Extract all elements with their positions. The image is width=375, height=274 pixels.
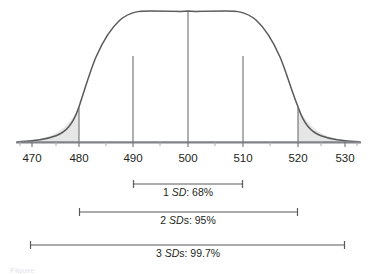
x-tick-label-510: 510: [233, 152, 252, 164]
sd3-label-prefix: 3: [156, 247, 165, 259]
x-tick-label-520: 520: [288, 152, 307, 164]
x-tick-label-470: 470: [22, 152, 41, 164]
sd3-bracket-group: 3 SDs: 99.7%: [30, 241, 345, 259]
x-axis-tick-labels: 470 480 490 500 510 520 530: [22, 152, 354, 164]
sd3-bracket-label: 3 SDs: 99.7%: [156, 247, 220, 259]
x-tick-label-480: 480: [69, 152, 88, 164]
sd1-label-sd: SD: [172, 186, 187, 198]
sd1-bracket-label: 1 SD: 68%: [163, 186, 213, 198]
x-tick-label-490: 490: [123, 152, 142, 164]
sd3-label-sd: SD: [165, 247, 180, 259]
sd2-bracket-label: 2 SDs: 95%: [160, 214, 215, 226]
figure-caption-clipped: Figure: [0, 265, 375, 274]
normal-distribution-figure: 470 480 490 500 510 520 530 1 SD: 68% 2 …: [0, 0, 375, 274]
major-ticks-group: [32, 142, 345, 147]
sd2-bracket-group: 2 SDs: 95%: [79, 208, 298, 226]
distribution-chart-svg: 470 480 490 500 510 520 530 1 SD: 68% 2 …: [0, 0, 375, 274]
sd1-label-prefix: 1: [163, 186, 172, 198]
x-tick-label-530: 530: [335, 152, 354, 164]
sd2-label-prefix: 2: [160, 214, 169, 226]
figure-caption-number: Figure: [10, 266, 34, 274]
sd3-label-suffix: s: 99.7%: [179, 247, 220, 259]
sd2-label-suffix: s: 95%: [184, 214, 216, 226]
sd1-label-suffix: : 68%: [186, 186, 213, 198]
x-tick-label-500: 500: [178, 152, 197, 164]
sd1-bracket-group: 1 SD: 68%: [133, 180, 243, 198]
sd2-label-sd: SD: [169, 214, 184, 226]
